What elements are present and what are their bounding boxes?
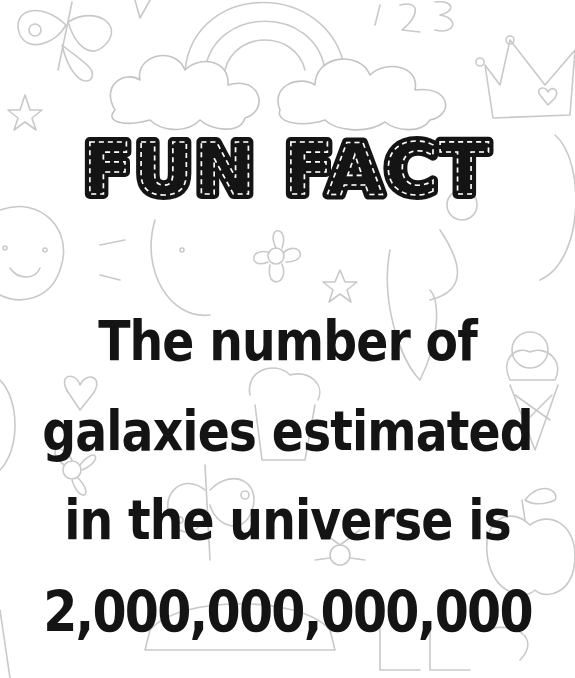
fact-number: 2,000,000,000,000: [40, 582, 535, 642]
butterfly-icon: [18, 2, 111, 81]
sun-icon: [0, 206, 125, 299]
fact-line-1: The number of: [40, 311, 535, 371]
crown-icon: [476, 36, 575, 118]
cloud-icon: [278, 59, 446, 130]
doodle-arc: [0, 380, 15, 470]
fact-line-2: galaxies estimated: [40, 401, 535, 461]
numbers-123-icon: [375, 2, 453, 32]
doodle-arc: [151, 220, 210, 315]
title-stitch-overlay: FUN FACT: [83, 127, 491, 211]
doodle-dot: [180, 248, 184, 252]
heart-icon: [135, 0, 150, 18]
fun-fact-title: FUN FACT FUN FACT: [0, 124, 575, 214]
rainbow-icon: [185, 3, 345, 71]
flower-icon: [254, 231, 301, 282]
star-icon: [323, 270, 357, 302]
fact-line-3: in the universe is: [40, 490, 535, 550]
doodle-arc: [430, 230, 458, 300]
